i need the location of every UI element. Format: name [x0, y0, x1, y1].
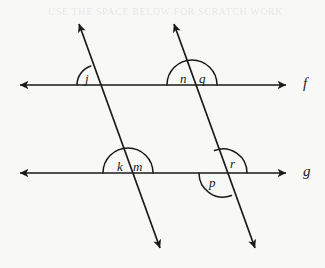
angle-label-q: q — [199, 72, 206, 85]
angle-label-p: p — [209, 176, 216, 189]
angle-label-m: m — [133, 160, 142, 173]
angle-label-j: j — [85, 72, 89, 85]
angle-label-k: k — [117, 160, 123, 173]
angle-label-n: n — [180, 72, 187, 85]
line-label-g: g — [303, 164, 311, 179]
geometry-diagram: USE THE SPACE BELOW FOR SCRATCH WORK — [0, 0, 325, 268]
angle-label-r: r — [230, 157, 235, 170]
diagram-canvas — [0, 0, 325, 268]
transversal-2-stroke — [174, 24, 255, 248]
transversal-1-stroke — [79, 24, 160, 248]
line-label-f: f — [303, 76, 307, 91]
